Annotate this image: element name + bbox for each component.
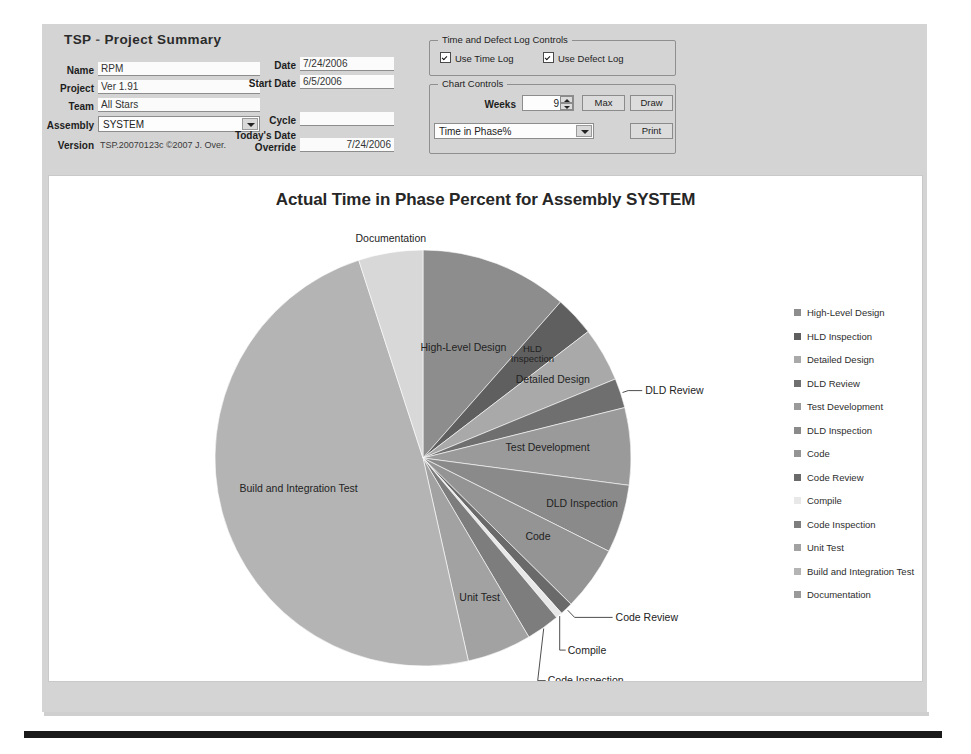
legend-item[interactable]: Build and Integration Test	[794, 560, 924, 584]
label-cycle: Cycle	[246, 115, 296, 126]
legend-marker-icon	[794, 450, 801, 457]
label-date: Date	[248, 60, 296, 71]
page-title-dash: -	[91, 32, 104, 47]
legend-item[interactable]: HLD Inspection	[794, 325, 924, 349]
legend-item[interactable]: DLD Inspection	[794, 419, 924, 443]
pie-slice-label: Build and Integration Test	[239, 482, 357, 494]
time-defect-log-controls-legend: Time and Defect Log Controls	[438, 34, 572, 45]
legend-marker-icon	[794, 521, 801, 528]
print-button[interactable]: Print	[630, 123, 673, 139]
date-input[interactable]	[300, 57, 394, 71]
legend-item-label: Build and Integration Test	[807, 566, 914, 577]
chart-panel: Actual Time in Phase Percent for Assembl…	[48, 175, 923, 682]
tsp-project-summary-window: TSP-Project Summary Name Project Team As…	[42, 24, 927, 712]
footer-rule	[24, 731, 942, 738]
legend-item[interactable]: High-Level Design	[794, 301, 924, 325]
legend-item-label: Unit Test	[807, 542, 844, 553]
legend-item-label: Code Review	[807, 472, 864, 483]
pie-chart: High-Level DesignDetailed DesignTest Dev…	[49, 176, 922, 681]
legend-item-label: DLD Review	[807, 378, 860, 389]
page-title-prefix: TSP	[64, 32, 91, 47]
legend-marker-icon	[794, 591, 801, 598]
legend-item[interactable]: Code Review	[794, 466, 924, 490]
leader-line	[568, 610, 613, 617]
chart-type-select[interactable]: Time in Phase%	[434, 123, 594, 139]
pie-chart-svg: High-Level DesignDetailed DesignTest Dev…	[49, 176, 922, 681]
legend-marker-icon	[794, 497, 801, 504]
pie-slice-label: Code Inspection	[548, 674, 624, 681]
pie-slice-label: Code Review	[616, 611, 679, 623]
label-assembly: Assembly	[44, 120, 94, 131]
label-today-override-line1: Today's Date	[222, 130, 296, 141]
weeks-stepper[interactable]: 9	[522, 95, 574, 111]
stepper-down-icon[interactable]	[560, 103, 573, 110]
checkbox-checked-icon[interactable]	[543, 52, 554, 63]
chart-controls-group: Chart Controls Weeks 9 Max Draw Time in …	[429, 84, 676, 154]
legend-item[interactable]: Unit Test	[794, 536, 924, 560]
legend-marker-icon	[794, 403, 801, 410]
legend-item-label: Test Development	[807, 401, 883, 412]
pie-slice-label: DLD Inspection	[546, 497, 618, 509]
team-input[interactable]	[98, 98, 260, 112]
window-shadow	[44, 712, 929, 716]
label-version: Version	[44, 140, 94, 151]
leader-line	[623, 391, 643, 393]
leader-line	[538, 629, 546, 681]
use-time-log-label: Use Time Log	[455, 53, 514, 64]
max-button[interactable]: Max	[582, 95, 625, 111]
page-title-main: Project Summary	[104, 32, 221, 47]
legend-item-label: Compile	[807, 495, 842, 506]
start-date-input[interactable]	[300, 75, 394, 89]
draw-button[interactable]: Draw	[630, 95, 673, 111]
pie-slice-label: Test Development	[506, 441, 590, 453]
pie-slice-label: Code	[525, 530, 550, 542]
pie-slice-label: High-Level Design	[421, 341, 507, 353]
label-project: Project	[50, 83, 94, 94]
legend-item-label: Documentation	[807, 589, 871, 600]
page-title: TSP-Project Summary	[64, 32, 221, 47]
pie-slice-label: DLD Review	[645, 384, 704, 396]
legend-marker-icon	[794, 380, 801, 387]
legend-item[interactable]: Documentation	[794, 583, 924, 607]
label-today-override-line2: Override	[222, 142, 296, 153]
legend-item[interactable]: Compile	[794, 489, 924, 513]
checkbox-checked-icon[interactable]	[440, 52, 451, 63]
legend-marker-icon	[794, 309, 801, 316]
legend-item-label: Detailed Design	[807, 354, 874, 365]
leader-line	[560, 616, 566, 650]
pie-slice-label: Documentation	[355, 232, 426, 244]
legend-item[interactable]: Test Development	[794, 395, 924, 419]
chart-legend: High-Level DesignHLD InspectionDetailed …	[794, 301, 924, 607]
legend-marker-icon	[794, 474, 801, 481]
today-date-override-input[interactable]	[300, 138, 394, 152]
label-team: Team	[50, 101, 94, 112]
legend-item-label: Code Inspection	[807, 519, 876, 530]
legend-item-label: High-Level Design	[807, 307, 885, 318]
use-time-log-checkbox[interactable]: Use Time Log	[440, 52, 514, 64]
pie-slices[interactable]	[215, 250, 631, 666]
label-start-date: Start Date	[232, 78, 296, 89]
cycle-input[interactable]	[300, 112, 394, 126]
legend-item-label: DLD Inspection	[807, 425, 872, 436]
name-input[interactable]	[98, 62, 260, 76]
legend-item[interactable]: Code	[794, 442, 924, 466]
use-defect-log-checkbox[interactable]: Use Defect Log	[543, 52, 623, 64]
assembly-select-value: SYSTEM	[103, 119, 144, 130]
legend-item[interactable]: Code Inspection	[794, 513, 924, 537]
chevron-down-icon[interactable]	[576, 125, 592, 137]
pie-slice-label: Compile	[568, 644, 607, 656]
pie-slice-label: Inspection	[511, 353, 554, 364]
label-weeks: Weeks	[462, 99, 516, 110]
stepper-up-icon[interactable]	[560, 96, 573, 103]
version-text: TSP.20070123c ©2007 J. Over.	[100, 140, 226, 150]
time-defect-log-controls-group: Time and Defect Log Controls Use Time Lo…	[429, 40, 676, 76]
legend-marker-icon	[794, 544, 801, 551]
legend-marker-icon	[794, 568, 801, 575]
use-defect-log-label: Use Defect Log	[558, 53, 623, 64]
legend-marker-icon	[794, 333, 801, 340]
legend-marker-icon	[794, 356, 801, 363]
legend-item[interactable]: Detailed Design	[794, 348, 924, 372]
chart-type-select-value: Time in Phase%	[439, 126, 511, 137]
legend-item[interactable]: DLD Review	[794, 372, 924, 396]
legend-item-label: Code	[807, 448, 830, 459]
